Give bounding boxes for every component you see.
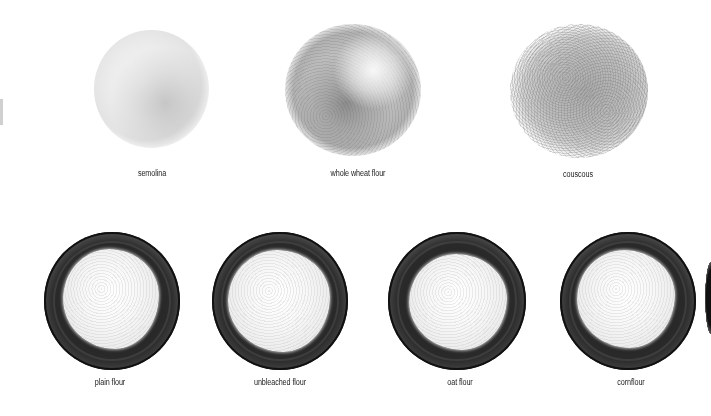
left-edge-fragment	[0, 99, 3, 125]
plain-flour-mound	[63, 249, 159, 349]
semolina-pile-image	[94, 30, 209, 148]
whole-wheat-flour-label: whole wheat flour	[290, 168, 426, 178]
oat-flour-label: oat flour	[392, 377, 528, 387]
unbleached-flour-bowl-image	[212, 232, 348, 370]
unbleached-flour-label: unbleached flour	[212, 377, 348, 387]
cornflour-bowl-image	[560, 232, 696, 370]
right-edge-bowl-fragment	[705, 262, 711, 334]
couscous-label: couscous	[510, 169, 646, 179]
cornflour-mound	[577, 250, 675, 348]
semolina-label: semolina	[84, 168, 220, 178]
plain-flour-bowl-image	[44, 232, 180, 370]
oat-flour-mound	[409, 254, 507, 350]
plain-flour-label: plain flour	[42, 377, 178, 387]
couscous-pile-image	[510, 24, 648, 158]
whole-wheat-flour-pile-image	[285, 24, 421, 156]
cornflour-label: cornflour	[563, 377, 699, 387]
oat-flour-bowl-image	[388, 232, 526, 370]
unbleached-flour-mound	[228, 250, 330, 352]
